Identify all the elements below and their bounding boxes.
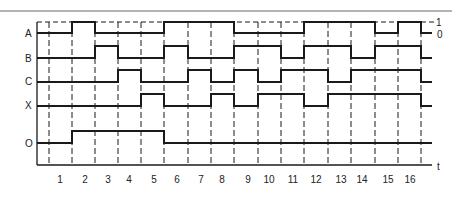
time-label: 11 xyxy=(288,174,299,185)
waveform-a xyxy=(37,22,432,33)
waveform-b xyxy=(37,46,432,58)
time-label: 10 xyxy=(263,174,275,185)
time-axis-labels: 12345678910111213141516 xyxy=(57,174,416,185)
time-label: 15 xyxy=(382,174,394,185)
signal-label-x: X xyxy=(25,100,32,111)
waveform-x xyxy=(37,94,432,106)
signal-label-b: B xyxy=(25,53,32,64)
time-label: 6 xyxy=(174,174,180,185)
time-label: 4 xyxy=(126,174,132,185)
time-label: 14 xyxy=(356,174,368,185)
signal-label-o: O xyxy=(25,138,33,149)
time-label: 9 xyxy=(245,174,251,185)
time-label: 8 xyxy=(219,174,225,185)
signal-label-c: C xyxy=(25,76,32,87)
time-label: 1 xyxy=(57,174,63,185)
time-label: 16 xyxy=(404,174,416,185)
time-label: 2 xyxy=(82,174,88,185)
level-low-label: 0 xyxy=(437,29,443,40)
time-axis-label: t xyxy=(437,161,440,172)
signal-labels: ABCXO xyxy=(25,28,33,149)
time-label: 13 xyxy=(335,174,347,185)
time-label: 5 xyxy=(151,174,157,185)
timing-diagram: ABCXO 12345678910111213141516 1 0 t xyxy=(0,0,464,219)
time-label: 3 xyxy=(105,174,111,185)
time-label: 12 xyxy=(310,174,322,185)
level-high-label: 1 xyxy=(436,17,442,28)
signal-label-a: A xyxy=(25,28,32,39)
time-label: 7 xyxy=(198,174,204,185)
waveform-c xyxy=(37,70,432,82)
